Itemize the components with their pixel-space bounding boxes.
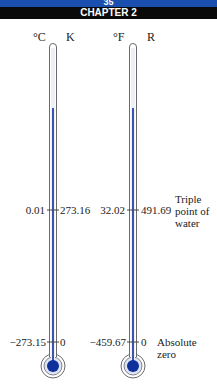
annotation-line: water	[175, 217, 199, 229]
annotation-line: point of	[175, 205, 210, 217]
celsius-absolute-zero: −273.15	[0, 336, 46, 348]
fahrenheit-triple-point: 32.02	[80, 204, 125, 216]
unit-celsius: °C	[33, 31, 46, 43]
bulb	[47, 360, 59, 372]
annotation-line: Triple	[175, 193, 202, 205]
annotation-line: zero	[157, 348, 176, 360]
unit-rankine: R	[147, 31, 155, 43]
bulb	[127, 360, 139, 372]
fahrenheit-absolute-zero: −459.67	[70, 336, 126, 348]
kelvin-absolute-zero: 0	[60, 336, 66, 348]
celsius-triple-point: 0.01	[0, 204, 45, 216]
rankine-absolute-zero: 0	[141, 336, 147, 348]
rankine-triple-point: 491.69	[141, 204, 171, 216]
unit-kelvin: K	[66, 31, 75, 43]
unit-fahrenheit: °F	[113, 31, 124, 43]
annotation-line: Absolute	[157, 336, 197, 348]
